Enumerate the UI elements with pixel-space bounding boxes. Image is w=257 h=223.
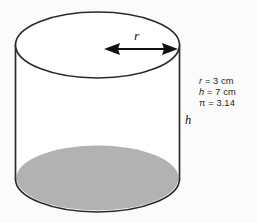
shaded-base-ellipse bbox=[17, 146, 179, 211]
measurements-list: r = 3 cm h = 7 cm π = 3.14 bbox=[199, 76, 257, 110]
measurement-radius-value: = 3 cm bbox=[205, 76, 234, 86]
measurement-radius: r = 3 cm bbox=[199, 76, 257, 87]
radius-label: r bbox=[134, 28, 140, 43]
cylinder-top-ellipse bbox=[16, 12, 180, 78]
measurement-pi-symbol: π bbox=[199, 98, 206, 108]
cylinder-diagram-svg: r h bbox=[0, 0, 257, 223]
measurement-height: h = 7 cm bbox=[199, 87, 257, 98]
height-label: h bbox=[185, 113, 191, 127]
measurement-radius-symbol: r bbox=[199, 76, 202, 86]
cylinder-figure: r h r = 3 cm h = 7 cm π = 3.14 bbox=[0, 0, 257, 223]
measurement-pi: π = 3.14 bbox=[199, 98, 257, 109]
measurement-pi-value: = 3.14 bbox=[208, 98, 235, 108]
measurement-height-symbol: h bbox=[199, 87, 204, 97]
measurement-height-value: = 7 cm bbox=[207, 87, 236, 97]
